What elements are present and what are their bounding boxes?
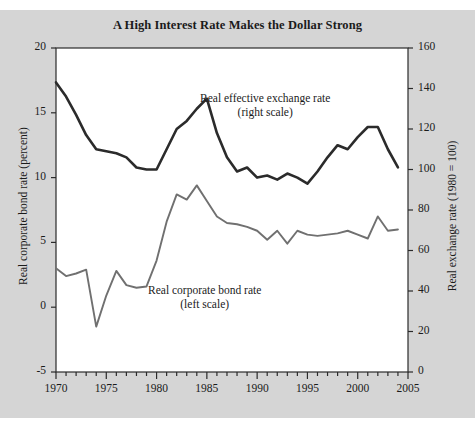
annotation-exchange-rate: Real effective exchange rate (right scal…: [200, 92, 330, 119]
left-axis-tick-label: 5: [12, 234, 46, 246]
right-axis-tick-label: 160: [418, 40, 452, 52]
right-axis-tick-label: 120: [418, 121, 452, 133]
x-axis-tick-label: 1990: [232, 382, 282, 394]
x-axis-tick-label: 1980: [132, 382, 182, 394]
left-axis-tick-label: 15: [12, 105, 46, 117]
annotation-exchange-rate-line1: Real effective exchange rate: [200, 92, 330, 106]
x-axis-tick-label: 2005: [383, 382, 433, 394]
right-axis-tick-label: 20: [418, 324, 452, 336]
chart-figure: A High Interest Rate Makes the Dollar St…: [0, 0, 475, 424]
x-axis-tick-label: 2000: [333, 382, 383, 394]
x-axis-tick-label: 1985: [182, 382, 232, 394]
right-axis-tick-label: 40: [418, 283, 452, 295]
annotation-bond-rate: Real corporate bond rate (left scale): [148, 284, 261, 311]
right-axis-tick-label: 140: [418, 81, 452, 93]
annotation-bond-rate-line1: Real corporate bond rate: [148, 284, 261, 298]
right-axis-title: Real exchange rate (1980 = 100): [446, 101, 458, 331]
left-axis-tick-label: 20: [12, 40, 46, 52]
annotation-bond-rate-line2: (left scale): [148, 298, 261, 312]
annotation-exchange-rate-line2: (right scale): [200, 106, 330, 120]
right-axis-tick-label: 60: [418, 243, 452, 255]
right-axis-tick-label: 80: [418, 202, 452, 214]
right-axis-tick-label: 0: [418, 364, 452, 376]
left-axis-tick-label: 10: [12, 170, 46, 182]
x-axis-tick-label: 1995: [282, 382, 332, 394]
right-axis-tick-label: 100: [418, 162, 452, 174]
left-axis-title: Real corporate bond rate (percent): [17, 91, 29, 321]
left-axis-tick-label: -5: [12, 364, 46, 376]
x-axis-tick-label: 1975: [81, 382, 131, 394]
x-axis-tick-label: 1970: [31, 382, 81, 394]
left-axis-tick-label: 0: [12, 299, 46, 311]
plot-area: [0, 0, 475, 424]
